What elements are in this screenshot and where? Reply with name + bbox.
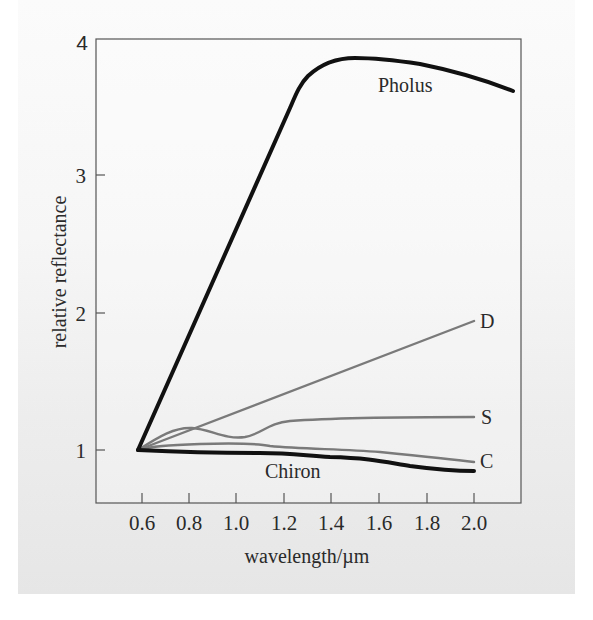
y-tick-label: 2 [76, 302, 87, 326]
series-label-s: S [481, 406, 492, 428]
y-tick-label: 1 [76, 439, 87, 463]
series-label-pholus: Pholus [378, 74, 433, 96]
x-tick-label: 2.0 [461, 511, 487, 535]
x-tick-label: 1.8 [414, 511, 440, 535]
y-axis-title: relative reflectance [48, 196, 70, 349]
x-tick-label: 1.4 [318, 511, 345, 535]
plot-frame [96, 39, 521, 503]
y-tick-label: 3 [76, 164, 87, 188]
series-label-c: C [480, 450, 493, 472]
x-tick-label: 1.2 [271, 511, 297, 535]
x-tick-label: 1.0 [223, 511, 249, 535]
reflectance-chart: 1 2 3 4 0.6 0.8 1.0 1.2 1.4 1.6 1.8 2.0 … [0, 0, 593, 620]
x-tick-label: 1.6 [366, 511, 392, 535]
y-tick-label: 4 [76, 31, 88, 54]
series-label-d: D [480, 310, 494, 332]
x-tick-label: 0.8 [176, 511, 202, 535]
x-tick-label: 0.6 [129, 511, 155, 535]
x-axis-title: wavelength/µm [245, 545, 370, 568]
series-label-chiron: Chiron [265, 460, 321, 482]
